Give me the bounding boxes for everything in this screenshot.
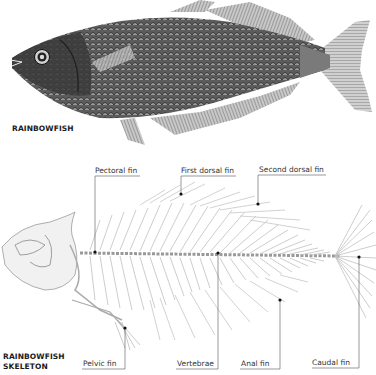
- label-caudal-fin: Caudal fin: [312, 358, 350, 367]
- label-pelvic-fin: Pelvic fin: [83, 359, 116, 368]
- label-anal-fin: Anal fin: [241, 359, 269, 368]
- rainbowfish-skeleton-illustration: [2, 182, 376, 350]
- label-pectoral-fin: Pectoral fin: [95, 166, 137, 175]
- label-vertebrae: Vertebrae: [177, 359, 214, 368]
- skeleton-title-line1: RAINBOWFISH: [3, 352, 65, 362]
- label-first-dorsal-fin: First dorsal fin: [181, 166, 234, 175]
- fish-title: RAINBOWFISH: [12, 124, 74, 134]
- leader-dots: [93, 192, 360, 329]
- label-second-dorsal-fin: Second dorsal fin: [259, 165, 324, 174]
- diagram-art: [0, 0, 376, 375]
- skeleton-title-line2: SKELETON: [3, 362, 48, 372]
